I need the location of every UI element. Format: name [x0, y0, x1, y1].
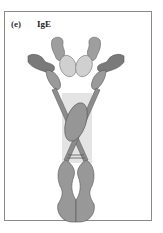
right-heavy-chain-constant [91, 70, 106, 90]
ige-antibody-diagram [0, 0, 163, 233]
left-heavy-chain-variable [28, 54, 55, 72]
right-heavy-chain-variable [97, 54, 124, 72]
right-ch3-domain [76, 160, 94, 222]
left-heavy-chain-constant [46, 70, 61, 90]
left-ch3-domain [58, 160, 76, 222]
